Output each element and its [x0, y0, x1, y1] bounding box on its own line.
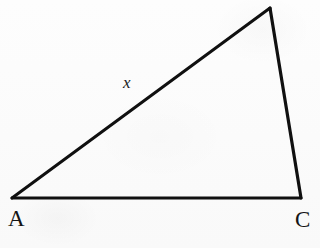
triangle-side-ab — [12, 8, 270, 198]
triangle-drawing — [0, 0, 320, 248]
geometry-figure: A C x — [0, 0, 320, 248]
vertex-c-joint — [299, 196, 302, 199]
vertex-label-a: A — [8, 207, 25, 230]
vertex-label-c: C — [295, 208, 310, 231]
side-length-label-x: x — [123, 74, 131, 91]
vertex-b-joint — [269, 8, 272, 11]
triangle-side-bc — [270, 8, 301, 198]
vertex-a-joint — [12, 196, 15, 199]
